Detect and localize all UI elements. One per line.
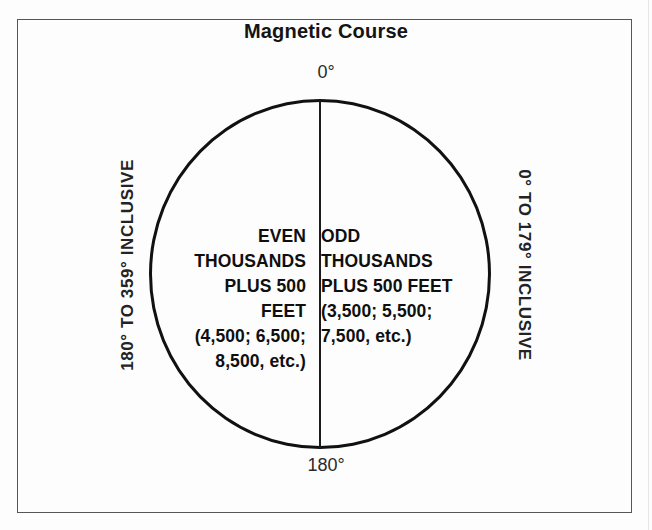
heading-label-0-degrees: 0°: [0, 62, 652, 83]
side-label-180-to-359: 180° TO 359° INCLUSIVE: [118, 159, 138, 371]
side-label-0-to-179: 0° TO 179° INCLUSIVE: [514, 169, 534, 361]
even-thousands-text: EVEN THOUSANDS PLUS 500 FEET (4,500; 6,5…: [149, 224, 314, 374]
figure-page: Magnetic Course 0° EVEN THOUSANDS PLUS 5…: [0, 0, 652, 530]
heading-label-180-degrees: 180°: [0, 455, 652, 476]
odd-thousands-text: ODD THOUSANDS PLUS 500 FEET (3,500; 5,50…: [314, 224, 491, 349]
page-title: Magnetic Course: [0, 20, 652, 43]
altitude-rules-group: EVEN THOUSANDS PLUS 500 FEET (4,500; 6,5…: [149, 224, 491, 384]
